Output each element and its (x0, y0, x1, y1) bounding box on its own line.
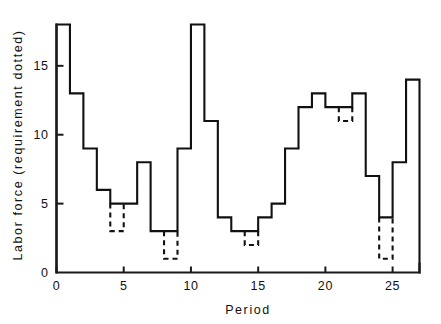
chart-background (0, 0, 441, 324)
y-axis-tick-label: 5 (41, 197, 49, 211)
x-axis-tick-label: 10 (183, 279, 198, 293)
x-axis-tick-label: 0 (53, 279, 61, 293)
y-axis-tick-label: 10 (33, 128, 48, 142)
chart-figure: 0510152025 051015 Period Labor force (re… (0, 0, 441, 324)
y-axis-tick-label: 0 (41, 266, 49, 280)
labor-force-step-chart: 0510152025 051015 Period Labor force (re… (0, 0, 441, 324)
x-axis-tick-label: 15 (251, 279, 266, 293)
x-axis-tick-label: 5 (120, 279, 128, 293)
x-axis-title: Period (225, 303, 271, 317)
y-axis-title: Labor force (requirement dotted) (11, 29, 25, 260)
y-axis-tick-label: 15 (33, 59, 48, 73)
x-axis-tick-label: 25 (385, 279, 400, 293)
x-axis-tick-label: 20 (318, 279, 333, 293)
